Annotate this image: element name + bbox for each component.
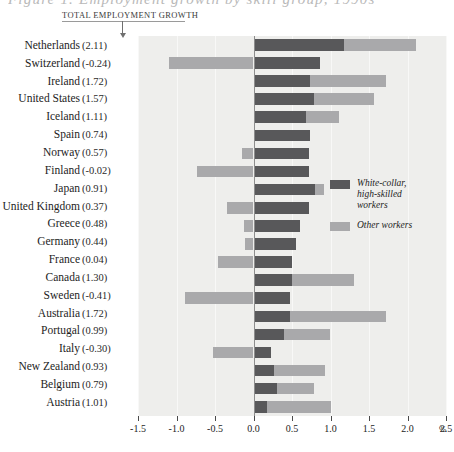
bar-row [138, 344, 446, 362]
x-axis-tick [254, 416, 255, 421]
country-label: Australia [38, 307, 80, 319]
bar-row [138, 145, 446, 163]
category-label-row: Greece(0.48) [0, 214, 132, 232]
x-axis-tick [331, 416, 332, 421]
bar-segment-other-workers [290, 311, 386, 323]
bar-segment-other-workers [185, 292, 254, 304]
x-axis-tick-label: -1.5 [130, 423, 146, 434]
bar-segment-white-collar [254, 184, 316, 196]
bar-segment-other-workers [169, 57, 254, 69]
bar-segment-white-collar [254, 220, 300, 232]
country-label: United Kingdom [2, 200, 80, 212]
bar-segment-white-collar [254, 292, 291, 304]
bar-row [138, 126, 446, 144]
bar-segment-other-workers [242, 148, 254, 160]
bar-row [138, 289, 446, 307]
bar-segment-other-workers [306, 111, 339, 123]
bar-segment-white-collar [254, 111, 306, 123]
x-axis-tick-label: 1.0 [324, 423, 337, 434]
x-axis-tick [215, 416, 216, 421]
category-label-column: Netherlands(2.11)Switzerland(-0.24)Irela… [0, 36, 132, 411]
total-employment-growth-annotation: TOTAL EMPLOYMENT GROWTH [62, 10, 198, 20]
legend-label: Other workers [357, 220, 450, 231]
total-growth-value: (0.99) [82, 325, 107, 336]
x-axis-tick [446, 416, 447, 421]
category-label-row: New Zealand(0.93) [0, 357, 132, 375]
legend-swatch-white-collar-high-skilled-workers [330, 180, 350, 189]
figure-title: Figure 1. Employment growth by skill gro… [8, 0, 448, 7]
bar-segment-other-workers [245, 238, 253, 250]
x-axis-tick [408, 416, 409, 421]
country-label: Belgium [40, 378, 80, 390]
country-label: Iceland [46, 110, 80, 122]
total-growth-value: (2.11) [82, 39, 107, 50]
bar-row [138, 108, 446, 126]
bar-segment-white-collar [254, 256, 293, 268]
bar-segment-other-workers [314, 93, 375, 105]
category-label-row: Spain(0.74) [0, 125, 132, 143]
x-axis-tick-label: 2.5 [440, 423, 453, 434]
bar-row [138, 271, 446, 289]
x-axis-tick [138, 416, 139, 421]
bar-segment-white-collar [254, 166, 309, 178]
x-axis-tick-label: 1.5 [363, 423, 376, 434]
annotation-arrow-icon [122, 21, 123, 35]
bar-segment-other-workers [227, 202, 254, 214]
bar-row [138, 90, 446, 108]
bar-segment-white-collar [254, 238, 296, 250]
bar-row [138, 362, 446, 380]
legend-label: White-collar, high-skilled workers [357, 178, 450, 211]
category-label-row: Sweden(-0.41) [0, 286, 132, 304]
category-label-row: Netherlands(2.11) [0, 36, 132, 54]
bar-segment-other-workers [315, 184, 323, 196]
total-growth-value: (0.74) [82, 129, 107, 140]
x-axis-tick [177, 416, 178, 421]
bar-segment-white-collar [254, 130, 311, 142]
legend-item: Other workers [330, 220, 450, 231]
category-label-row: Italy(-0.30) [0, 339, 132, 357]
bar-segment-white-collar [254, 148, 309, 160]
legend-swatch-other-workers [330, 222, 350, 231]
bar-row [138, 253, 446, 271]
country-label: Portugal [41, 324, 80, 336]
total-growth-value: (1.11) [82, 111, 107, 122]
total-growth-value: (0.91) [82, 182, 107, 193]
country-label: Norway [43, 146, 80, 158]
total-growth-value: (0.44) [82, 236, 107, 247]
category-label-row: Japan(0.91) [0, 179, 132, 197]
bar-segment-white-collar [254, 75, 310, 87]
bar-segment-white-collar [254, 401, 268, 413]
category-label-row: Belgium(0.79) [0, 375, 132, 393]
country-label: Netherlands [24, 39, 80, 51]
bar-row [138, 72, 446, 90]
country-label: France [49, 253, 80, 265]
total-growth-value: (0.37) [82, 200, 107, 211]
category-label-row: Germany(0.44) [0, 232, 132, 250]
bar-row [138, 398, 446, 416]
bar-segment-other-workers [277, 383, 315, 395]
total-growth-value: (1.01) [82, 396, 107, 407]
total-growth-value: (0.57) [82, 146, 107, 157]
country-label: Germany [37, 235, 80, 247]
category-label-row: Norway(0.57) [0, 143, 132, 161]
total-growth-value: (-0.41) [82, 289, 111, 300]
country-label: Spain [54, 128, 80, 140]
bar-segment-white-collar [254, 383, 277, 395]
chart-figure: Figure 1. Employment growth by skill gro… [0, 0, 454, 452]
bar-segment-white-collar [254, 39, 345, 51]
category-label-row: Australia(1.72) [0, 304, 132, 322]
category-label-row: Iceland(1.11) [0, 107, 132, 125]
total-growth-value: (0.93) [82, 361, 107, 372]
category-label-row: Austria(1.01) [0, 393, 132, 411]
bar-segment-white-collar [254, 202, 309, 214]
country-label: Austria [46, 396, 80, 408]
country-label: Greece [47, 217, 80, 229]
total-growth-value: (0.04) [82, 254, 107, 265]
country-label: Japan [54, 182, 80, 194]
category-label-row: Finland(-0.02) [0, 161, 132, 179]
bar-row [138, 54, 446, 72]
bar-segment-white-collar [254, 93, 314, 105]
country-label: Finland [45, 164, 80, 176]
country-label: United States [18, 92, 80, 104]
country-label: Canada [46, 271, 80, 283]
